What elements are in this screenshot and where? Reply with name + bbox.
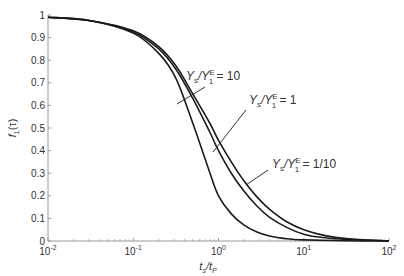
annotation-label: Ys/YE1 = 1/10 (272, 156, 337, 174)
curve-series-2 (48, 17, 389, 241)
y-tick-label: 1 (39, 10, 45, 21)
x-tick-label: 10-1 (125, 244, 142, 257)
curves (48, 17, 389, 241)
x-tick-label: 10-2 (39, 244, 56, 257)
chart-figure: 00.10.20.30.40.50.60.70.80.9110-210-1100… (0, 0, 404, 276)
y-tick-label: 0.4 (31, 145, 45, 156)
axes: 00.10.20.30.40.50.60.70.80.9110-210-1100… (6, 10, 397, 275)
x-tick-label: 101 (296, 244, 311, 257)
y-tick-label: 0.1 (31, 213, 45, 224)
leader-line (213, 110, 246, 152)
y-tick-label: 0.6 (31, 100, 45, 111)
x-tick-label: 100 (211, 244, 226, 257)
y-axis-label: f1(τ) (6, 119, 20, 138)
leader-line (246, 170, 268, 185)
annotation-label: Ys/YE1 = 10 (186, 68, 241, 86)
x-tick-label: 102 (381, 244, 396, 257)
curve-series-1 (48, 17, 389, 241)
y-tick-label: 0.9 (31, 32, 45, 43)
y-tick-label: 0.3 (31, 168, 45, 179)
y-tick-label: 0.2 (31, 190, 45, 201)
y-tick-label: 0.8 (31, 55, 45, 66)
y-tick-label: 0.5 (31, 123, 45, 134)
annotations: Ys/YE1 = 10Ys/YE1 = 1Ys/YE1 = 1/10 (177, 68, 337, 185)
annotation-label: Ys/YE1 = 1 (249, 92, 297, 110)
curve-series-3 (48, 17, 389, 241)
y-tick-label: 0.7 (31, 77, 45, 88)
y-tick-label: 0 (39, 236, 45, 247)
x-axis-label: ts/tP (199, 260, 217, 274)
